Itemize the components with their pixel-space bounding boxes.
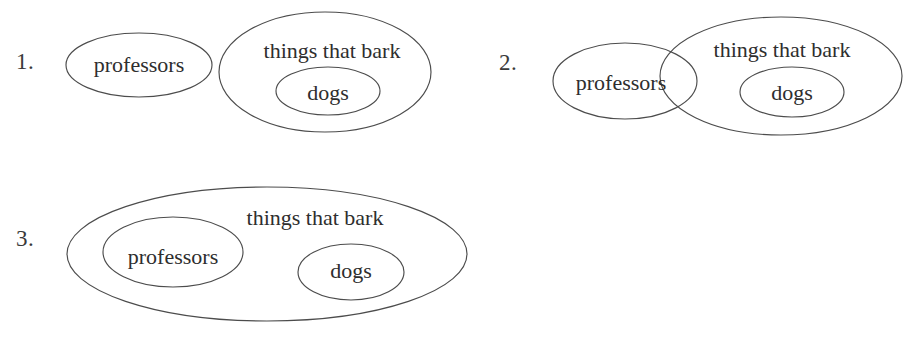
- diagram-2-number: 2.: [499, 51, 517, 74]
- d1-dogs-label: dogs: [307, 82, 349, 104]
- d1-professors-label: professors: [94, 54, 184, 76]
- d1-things-that-bark-label: things that bark: [264, 40, 401, 62]
- diagram-3-number: 3.: [16, 227, 34, 250]
- d3-professors-label: professors: [128, 246, 218, 268]
- d2-things-that-bark-label: things that bark: [714, 39, 851, 61]
- d3-things-that-bark-label: things that bark: [247, 207, 384, 229]
- d2-dogs-label: dogs: [771, 82, 813, 104]
- diagram-1-number: 1.: [16, 50, 34, 73]
- d2-professors-label: professors: [576, 72, 666, 94]
- d1-things-that-bark-ellipse: [219, 12, 431, 132]
- d3-dogs-label: dogs: [330, 260, 372, 282]
- euler-diagram-figure: 1. 2. 3. professors things that bark dog…: [0, 0, 918, 342]
